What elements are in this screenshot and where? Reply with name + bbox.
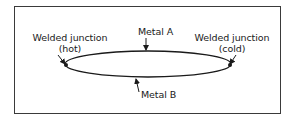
hot-junction-label-line1: Welded junction (30, 32, 110, 43)
metal-a-label: Metal A (138, 26, 173, 37)
metal-b-label: Metal B (141, 89, 176, 100)
cold-junction-label-line2: (cold) (192, 43, 272, 54)
hot-junction-label-line2: (hot) (30, 43, 110, 54)
cold-junction-weld-icon (228, 63, 232, 67)
thermocouple-diagram (0, 0, 296, 122)
cold-junction-arrow-icon (230, 55, 236, 64)
hot-junction-arrow-icon (58, 55, 65, 64)
cold-junction-label-line1: Welded junction (192, 32, 272, 43)
hot-junction-label: Welded junction (hot) (30, 32, 110, 54)
cold-junction-label: Welded junction (cold) (192, 32, 272, 54)
metal-b-arrow-icon (136, 79, 139, 92)
thermocouple-loop (65, 51, 231, 77)
hot-junction-weld-icon (64, 63, 68, 67)
